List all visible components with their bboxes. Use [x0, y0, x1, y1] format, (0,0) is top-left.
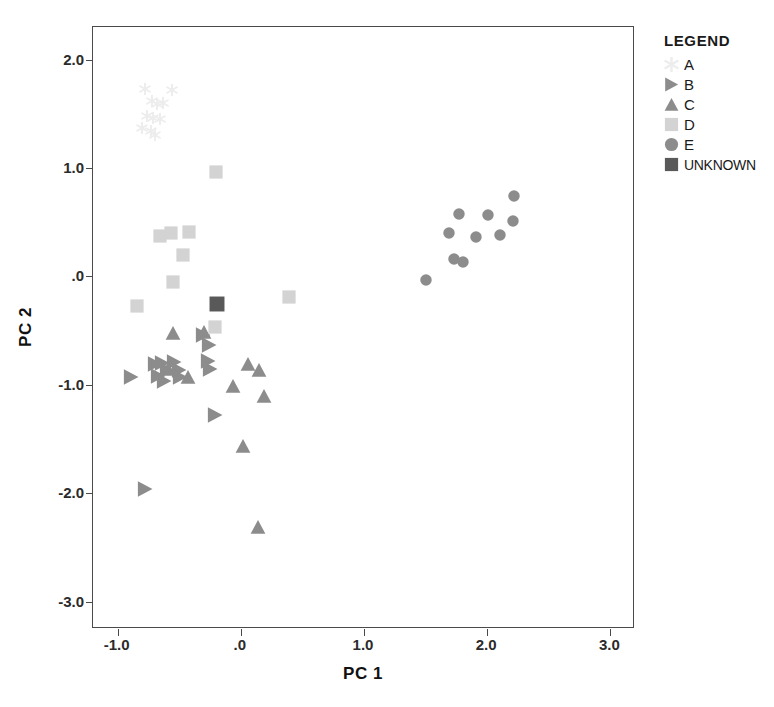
data-point-d — [209, 165, 224, 180]
x-tick — [610, 629, 611, 636]
legend-item-d[interactable]: D — [664, 115, 774, 134]
scatter-plot-figure: PC 2 PC 1 2.01.0.0-1.0-2.0-3.0 -1.0.01.0… — [0, 0, 774, 707]
data-point-e — [508, 190, 521, 203]
data-point-e — [442, 227, 455, 240]
data-point-c — [160, 361, 176, 377]
data-point-e — [507, 215, 520, 228]
legend-item-unknown[interactable]: UNKNOWN — [664, 155, 774, 174]
y-tick-label: .0 — [71, 267, 84, 284]
square-icon — [664, 116, 684, 133]
data-point-b — [202, 360, 219, 377]
legend-entries: ABCDEUNKNOWN — [664, 55, 774, 174]
data-point-d — [182, 225, 197, 240]
star-icon — [664, 56, 684, 73]
legend: LEGEND ABCDEUNKNOWN — [664, 32, 774, 175]
x-tick — [118, 629, 119, 636]
data-point-c — [165, 325, 181, 341]
legend-item-label: C — [684, 96, 695, 113]
data-point-b — [123, 369, 140, 386]
data-point-c — [180, 369, 196, 385]
data-point-a — [166, 84, 178, 96]
data-point-d — [207, 320, 222, 335]
triangle-up-icon — [664, 96, 684, 113]
data-point-c — [235, 438, 251, 454]
data-point-e — [419, 273, 432, 286]
data-points-layer — [93, 27, 633, 627]
plot-area — [92, 26, 634, 628]
data-point-e — [470, 231, 483, 244]
legend-item-b[interactable]: B — [664, 75, 774, 94]
y-tick — [86, 493, 93, 494]
legend-item-label: B — [684, 76, 694, 93]
data-point-e — [493, 229, 506, 242]
triangle-right-icon — [664, 76, 684, 93]
data-point-c — [251, 362, 267, 378]
legend-item-label: UNKNOWN — [684, 157, 756, 173]
data-point-a — [139, 83, 151, 95]
y-tick-label: -3.0 — [58, 592, 84, 609]
data-point-b — [136, 481, 153, 498]
data-point-d — [281, 290, 296, 305]
data-point-e — [456, 256, 469, 269]
data-point-e — [452, 207, 465, 220]
y-tick-label: -1.0 — [58, 375, 84, 392]
y-tick — [86, 276, 93, 277]
x-axis-title: PC 1 — [92, 664, 634, 684]
x-tick — [487, 629, 488, 636]
data-point-d — [130, 298, 145, 313]
legend-item-a[interactable]: A — [664, 55, 774, 74]
data-point-d — [166, 274, 181, 289]
legend-item-c[interactable]: C — [664, 95, 774, 114]
data-point-c — [225, 378, 241, 394]
data-point-e — [482, 208, 495, 221]
x-tick — [241, 629, 242, 636]
legend-item-label: E — [684, 136, 694, 153]
data-point-a — [154, 113, 166, 125]
x-tick-label: 2.0 — [476, 636, 497, 653]
legend-item-e[interactable]: E — [664, 135, 774, 154]
data-point-c — [250, 519, 266, 535]
y-tick-label: 2.0 — [63, 50, 84, 67]
data-point-c — [256, 388, 272, 404]
data-point-unknown — [209, 295, 226, 312]
data-point-d — [175, 247, 190, 262]
y-tick — [86, 602, 93, 603]
x-tick-label: -1.0 — [104, 636, 130, 653]
x-tick-label: .0 — [234, 636, 247, 653]
data-point-d — [163, 226, 178, 241]
data-point-a — [157, 97, 169, 109]
x-tick-label: 1.0 — [353, 636, 374, 653]
y-tick-label: 1.0 — [63, 159, 84, 176]
y-tick-label: -2.0 — [58, 484, 84, 501]
legend-item-label: A — [684, 56, 694, 73]
x-tick — [364, 629, 365, 636]
data-point-b — [206, 407, 223, 424]
circle-icon — [664, 136, 684, 153]
x-tick-label: 3.0 — [599, 636, 620, 653]
square-icon — [664, 156, 684, 173]
y-tick — [86, 60, 93, 61]
legend-title: LEGEND — [664, 32, 774, 49]
y-tick — [86, 168, 93, 169]
legend-item-label: D — [684, 116, 695, 133]
y-axis-title: PC 2 — [16, 307, 36, 347]
y-tick — [86, 385, 93, 386]
data-point-a — [149, 129, 161, 141]
